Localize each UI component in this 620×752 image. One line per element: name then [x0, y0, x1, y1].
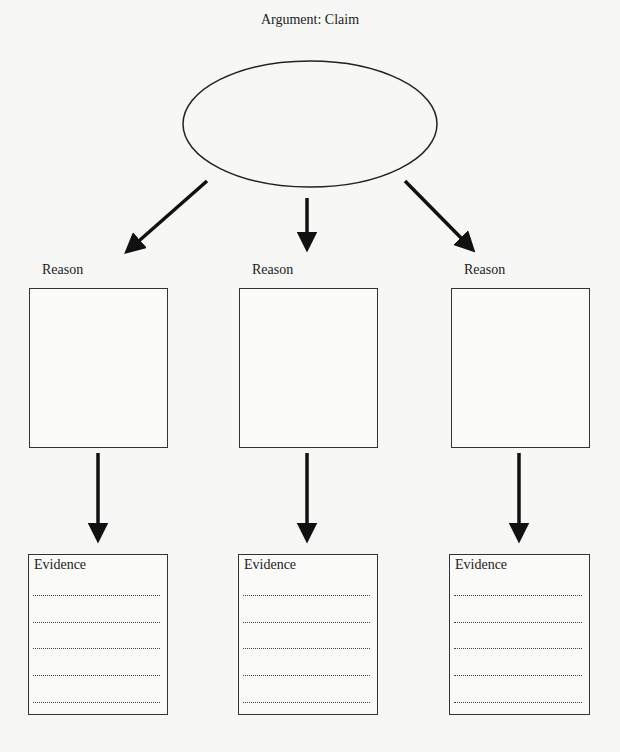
reason-3-box[interactable] [451, 288, 590, 448]
evidence-1-label: Evidence [34, 557, 86, 573]
reason-1-label: Reason [42, 262, 83, 278]
evidence-1-line-1[interactable] [33, 595, 160, 596]
evidence-2-line-2[interactable] [243, 622, 370, 623]
evidence-1-line-2[interactable] [33, 622, 160, 623]
evidence-3-label: Evidence [455, 557, 507, 573]
evidence-1-line-5[interactable] [33, 702, 160, 703]
evidence-2-line-5[interactable] [243, 702, 370, 703]
reason-1-box[interactable] [29, 288, 168, 448]
arrow-claim-to-reason-1 [132, 181, 207, 247]
evidence-2-line-3[interactable] [243, 648, 370, 649]
evidence-3-box[interactable]: Evidence [449, 554, 590, 715]
evidence-3-line-1[interactable] [454, 595, 582, 596]
evidence-3-line-3[interactable] [454, 648, 582, 649]
diagram-title: Argument: Claim [0, 12, 620, 28]
evidence-1-line-3[interactable] [33, 648, 160, 649]
evidence-2-line-1[interactable] [243, 595, 370, 596]
evidence-3-line-4[interactable] [454, 675, 582, 676]
evidence-3-line-2[interactable] [454, 622, 582, 623]
evidence-1-line-4[interactable] [33, 675, 160, 676]
reason-2-label: Reason [252, 262, 293, 278]
evidence-1-box[interactable]: Evidence [28, 554, 168, 715]
evidence-3-line-5[interactable] [454, 702, 582, 703]
evidence-2-line-4[interactable] [243, 675, 370, 676]
evidence-2-label: Evidence [244, 557, 296, 573]
claim-ellipse[interactable] [183, 61, 437, 187]
reason-2-box[interactable] [239, 288, 378, 448]
arrow-claim-to-reason-3 [405, 181, 468, 245]
evidence-2-box[interactable]: Evidence [238, 554, 378, 715]
reason-3-label: Reason [464, 262, 505, 278]
